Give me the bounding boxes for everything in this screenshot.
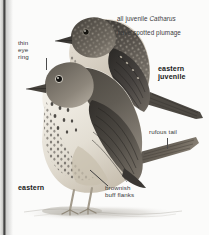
annotation-rufous-tail: rufous tail xyxy=(149,129,177,136)
juvenile-bill xyxy=(55,36,72,44)
field-guide-plate: all juvenile Catharus have spotted pluma… xyxy=(0,0,209,235)
annotation-juvenile-note: all juvenile Catharus have spotted pluma… xyxy=(117,8,181,36)
annotation-eastern: eastern xyxy=(18,185,44,193)
juvenile-note-line2: have spotted plumage xyxy=(117,29,181,36)
leader-line-rufous-tail xyxy=(167,138,168,149)
page-gutter-fade xyxy=(7,0,13,235)
page-gutter xyxy=(0,0,7,235)
adult-head xyxy=(45,62,94,107)
annotation-brownish-buff-flanks: brownish buff flanks xyxy=(105,185,134,199)
annotation-thin-eye-ring: thin eye ring xyxy=(18,40,29,61)
ground-shadow xyxy=(18,205,182,221)
juvenile-note-prefix: all juvenile xyxy=(117,15,149,22)
annotation-eastern-juvenile: eastern juvenile xyxy=(158,66,186,82)
leader-line-eye-ring xyxy=(46,58,47,70)
juvenile-note-genus: Catharus xyxy=(149,15,175,22)
